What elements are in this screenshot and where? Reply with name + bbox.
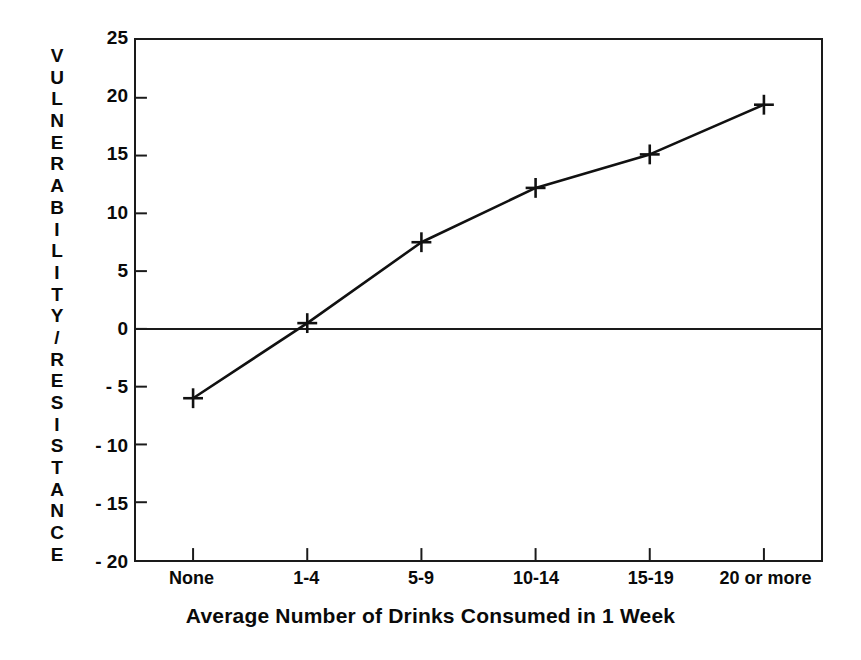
x-axis-tick-label: 10-14: [513, 568, 559, 589]
y-axis-label-char: A: [50, 176, 64, 195]
y-axis-label-char: R: [50, 350, 64, 369]
y-axis-label-char: I: [54, 415, 59, 434]
y-axis-label-char: I: [54, 220, 59, 239]
data-point-marker: [411, 232, 431, 252]
chart-figure: VULNERABILITY/RESISTANCE 2520151050- 5- …: [0, 0, 861, 660]
y-axis-label-char: E: [51, 371, 64, 390]
x-axis-tick-label: 20 or more: [720, 568, 812, 589]
x-axis-title: Average Number of Drinks Consumed in 1 W…: [0, 604, 861, 628]
y-axis-tick-label: - 10: [66, 435, 128, 457]
y-axis-label-char: Y: [51, 306, 64, 325]
x-axis-tick-labels: None1-45-910-1415-1920 or more: [134, 568, 823, 596]
data-point-marker: [754, 95, 774, 115]
y-axis-label-char: U: [50, 68, 64, 87]
y-axis-label-char: B: [50, 198, 64, 217]
y-axis-label-char: N: [50, 111, 64, 130]
y-axis-tick-label: 20: [66, 85, 128, 107]
y-axis-label-char: V: [51, 46, 64, 65]
y-axis-tick-label: - 20: [66, 551, 128, 573]
y-axis-tick-label: - 5: [66, 376, 128, 398]
x-axis-tick-label: 1-4: [293, 568, 319, 589]
y-axis-tick-label: 10: [66, 202, 128, 224]
x-axis-tick-label: 5-9: [408, 568, 434, 589]
y-axis-label-char: E: [51, 545, 64, 564]
data-point-marker: [526, 178, 546, 198]
y-axis-tick-labels: 2520151050- 5- 10- 15- 20: [66, 0, 128, 660]
data-point-marker: [640, 144, 660, 164]
y-axis-label-char: S: [51, 393, 64, 412]
y-axis-label-char: L: [51, 241, 63, 260]
data-point-marker: [297, 313, 317, 333]
x-axis-tick-label: None: [169, 568, 214, 589]
y-axis-tick-label: 15: [66, 143, 128, 165]
y-axis-tick-label: 0: [66, 318, 128, 340]
plot-svg: [136, 40, 821, 560]
y-axis-label-char: S: [51, 436, 64, 455]
y-axis-label-char: R: [50, 154, 64, 173]
plot-area: [134, 38, 823, 562]
y-axis-label-char: /: [54, 328, 59, 347]
y-axis-tick-label: 5: [66, 260, 128, 282]
y-axis-tick-label: - 15: [66, 493, 128, 515]
y-axis-label-char: T: [51, 285, 63, 304]
y-axis-label-char: T: [51, 458, 63, 477]
x-axis-tick-label: 15-19: [628, 568, 674, 589]
y-axis-tick-label: 25: [66, 27, 128, 49]
y-axis-label-char: A: [50, 480, 64, 499]
y-axis-label-char: E: [51, 133, 64, 152]
y-axis-label-char: L: [51, 89, 63, 108]
data-line: [193, 105, 764, 399]
y-axis-label-char: C: [50, 523, 64, 542]
data-point-marker: [183, 388, 203, 408]
y-axis-label-char: N: [50, 501, 64, 520]
y-axis-label-char: I: [54, 263, 59, 282]
